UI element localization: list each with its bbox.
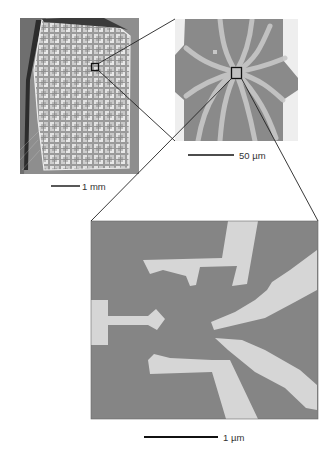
- scale-label-1mm: 1 mm: [82, 181, 106, 192]
- multiscale-figure: 1 mm 50 µm 1 µm: [0, 0, 335, 454]
- panel-device-1um: [91, 221, 318, 419]
- panel-device-50um: [175, 19, 298, 141]
- scale-label-50um: 50 µm: [239, 150, 266, 161]
- scale-bar-1mm: 1 mm: [51, 181, 106, 192]
- scale-label-1um: 1 µm: [223, 432, 244, 443]
- scale-bar-50um: 50 µm: [188, 150, 266, 161]
- scale-bar-1um: 1 µm: [144, 432, 244, 443]
- panel-chip-photo: [20, 16, 139, 174]
